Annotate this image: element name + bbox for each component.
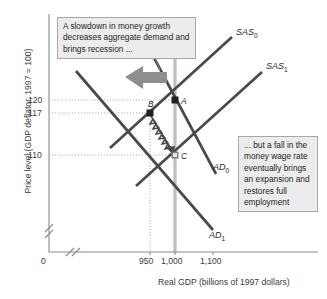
y-tick-110: 110 — [28, 150, 42, 160]
y-tick-117: 117 — [28, 108, 42, 118]
figure-canvas: Price level (GDP deflator, 1997 = 100) 1… — [0, 0, 327, 299]
curve-label-ad0-text: AD — [213, 162, 226, 172]
y-tick-120: 120 — [28, 95, 42, 105]
curve-label-ad0-sub: 0 — [226, 167, 230, 174]
curve-label-ad1-sub: 1 — [222, 235, 226, 242]
curve-label-sas0-text: SAS — [236, 27, 254, 37]
y-axis-title: Price level (GDP deflator, 1997 = 100) — [23, 31, 33, 211]
x-axis-title: Real GDP (billions of 1997 dollars) — [158, 277, 290, 287]
origin-label: 0 — [41, 256, 46, 266]
callout-left: A slowdown in money growth decreases agg… — [57, 17, 196, 59]
curve-label-ad1: AD1 — [209, 230, 225, 242]
curve-label-sas1-sub: 1 — [284, 66, 288, 73]
point-b-marker — [147, 110, 154, 117]
curve-label-sas0-sub: 0 — [254, 32, 258, 39]
curve-label-sas0: SAS0 — [236, 27, 258, 39]
curve-label-sas1: SAS1 — [266, 61, 288, 73]
point-label-a: A — [181, 96, 187, 106]
x-tick-1000: 1,000 — [161, 256, 183, 266]
x-tick-950: 950 — [139, 256, 153, 266]
adjustment-arrow-icon — [150, 116, 175, 155]
point-c-inner — [173, 153, 177, 157]
point-a-marker — [172, 97, 179, 104]
callout-right: ... but a fall in the money wage rate ev… — [238, 136, 318, 212]
point-label-c: C — [181, 151, 187, 161]
curve-ad1 — [76, 71, 213, 230]
curve-label-ad0: AD0 — [213, 162, 229, 174]
point-label-b: B — [148, 99, 154, 109]
curve-label-ad1-text: AD — [209, 230, 222, 240]
x-tick-1100: 1,100 — [200, 256, 222, 266]
curve-label-sas1-text: SAS — [266, 61, 284, 71]
